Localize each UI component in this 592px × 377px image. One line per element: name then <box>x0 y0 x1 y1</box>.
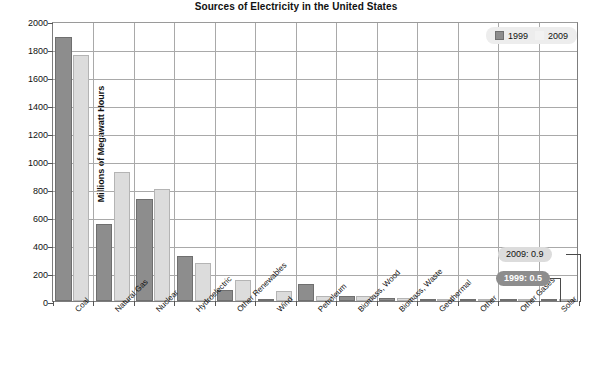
bar-2009[interactable] <box>73 55 89 301</box>
y-tick-label: 2000 <box>28 18 48 28</box>
y-tick-label: 200 <box>33 270 48 280</box>
bar-group <box>296 23 336 301</box>
bar-1999[interactable] <box>258 299 274 301</box>
bar-1999[interactable] <box>339 296 355 301</box>
y-tick-label: 1000 <box>28 158 48 168</box>
bar-group <box>53 23 93 301</box>
legend-label-1999: 1999 <box>508 31 528 41</box>
legend-item-1999[interactable]: 1999 <box>495 31 528 41</box>
bar-1999[interactable] <box>55 37 71 301</box>
plot-area: Millions of Megawatt Hours 0200400600800… <box>52 22 578 302</box>
bar-chart: Sources of Electricity in the United Sta… <box>0 0 592 377</box>
y-tick-label: 1800 <box>28 46 48 56</box>
bar-1999[interactable] <box>541 299 557 301</box>
bar-group <box>377 23 417 301</box>
annotation-callout-2009[interactable]: 2009: 0.9 <box>498 247 552 262</box>
swatch-2009-icon <box>535 31 544 40</box>
bar-1999[interactable] <box>500 299 516 301</box>
bar-group <box>336 23 376 301</box>
y-tick-label: 1400 <box>28 102 48 112</box>
bar-2009[interactable] <box>154 189 170 301</box>
bar-1999[interactable] <box>96 224 112 301</box>
bar-1999[interactable] <box>460 299 476 301</box>
y-tick-label: 600 <box>33 214 48 224</box>
y-tick-label: 1600 <box>28 74 48 84</box>
bar-group <box>255 23 295 301</box>
chart-title: Sources of Electricity in the United Sta… <box>0 1 592 12</box>
swatch-1999-icon <box>495 31 504 40</box>
bar-1999[interactable] <box>379 298 395 301</box>
x-axis-labels: CoalNatural GasNuclearHydroelectricOther… <box>52 302 578 377</box>
bar-group <box>215 23 255 301</box>
bar-series-container <box>53 23 577 301</box>
annotation-leader-vertical <box>580 254 581 302</box>
bar-group <box>458 23 498 301</box>
bar-1999[interactable] <box>298 284 314 301</box>
legend-label-2009: 2009 <box>548 31 568 41</box>
bar-group <box>93 23 133 301</box>
bar-group <box>134 23 174 301</box>
annotation-leader-vertical <box>560 278 561 302</box>
y-tick-label: 800 <box>33 186 48 196</box>
legend-item-2009[interactable]: 2009 <box>535 31 568 41</box>
bar-1999[interactable] <box>420 299 436 301</box>
y-tick-label: 1200 <box>28 130 48 140</box>
chart-legend: 1999 2009 <box>486 27 577 44</box>
annotation-leader-horizontal <box>566 254 580 255</box>
annotation-leader-horizontal <box>550 278 560 279</box>
annotation-callout-1999[interactable]: 1999: 0.5 <box>496 271 550 286</box>
bar-2009[interactable] <box>114 172 130 301</box>
y-tick-label: 400 <box>33 242 48 252</box>
bar-group <box>417 23 457 301</box>
bar-group <box>174 23 214 301</box>
